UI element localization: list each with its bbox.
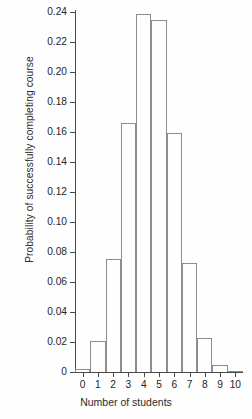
y-tick-label: 0.18	[47, 96, 67, 107]
y-tick-label: 0.04	[47, 306, 67, 317]
y-tick-label: 0.20	[47, 66, 67, 77]
y-tick-mark	[70, 222, 75, 223]
y-tick-mark	[70, 312, 75, 313]
histogram-bar	[75, 369, 90, 372]
histogram-bar	[151, 20, 166, 372]
x-tick-mark	[144, 372, 145, 377]
y-tick-label: 0.12	[47, 186, 67, 197]
x-tick-mark	[190, 372, 191, 377]
y-tick-label: 0.06	[47, 276, 67, 287]
histogram-bar	[90, 341, 105, 373]
x-tick-label: 10	[223, 379, 247, 390]
y-tick-mark	[70, 192, 75, 193]
x-tick-mark	[205, 372, 206, 377]
y-tick-mark	[70, 42, 75, 43]
y-tick-mark	[70, 252, 75, 253]
y-tick-label: 0.02	[47, 336, 67, 347]
histogram-bar	[182, 263, 197, 373]
y-tick-mark	[70, 72, 75, 73]
y-tick-mark	[70, 162, 75, 163]
y-tick-label: 0.22	[47, 36, 67, 47]
x-tick-mark	[220, 372, 221, 377]
y-tick-label: 0	[61, 366, 67, 377]
x-tick-mark	[159, 372, 160, 377]
y-axis-line	[75, 10, 76, 372]
y-tick-label: 0.24	[47, 6, 67, 17]
x-tick-mark	[235, 372, 236, 377]
histogram-bar	[212, 365, 227, 372]
histogram-bar	[228, 371, 243, 372]
histogram-bar	[121, 123, 136, 372]
histogram-chart: Probability of successfully completing c…	[0, 0, 252, 419]
y-tick-label: 0.14	[47, 156, 67, 167]
x-tick-mark	[98, 372, 99, 377]
x-tick-mark	[174, 372, 175, 377]
histogram-bar	[197, 338, 212, 372]
y-tick-label: 0.10	[47, 216, 67, 227]
y-tick-label: 0.08	[47, 246, 67, 257]
x-tick-mark	[83, 372, 84, 377]
y-tick-mark	[70, 342, 75, 343]
histogram-bar	[136, 14, 151, 372]
histogram-bar	[167, 133, 182, 372]
x-tick-mark	[113, 372, 114, 377]
y-tick-mark	[70, 12, 75, 13]
x-axis-title: Number of students	[0, 396, 252, 408]
y-tick-mark	[70, 102, 75, 103]
y-tick-mark	[70, 282, 75, 283]
y-tick-label: 0.16	[47, 126, 67, 137]
plot-area: 0.240.220.200.180.160.140.120.100.080.06…	[0, 0, 252, 419]
y-tick-mark	[70, 132, 75, 133]
x-tick-mark	[128, 372, 129, 377]
histogram-bar	[106, 259, 121, 372]
